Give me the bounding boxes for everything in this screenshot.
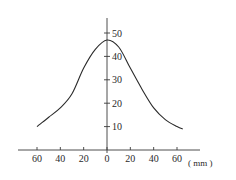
x-tick-label: 60: [32, 153, 42, 164]
data-curve: [37, 40, 183, 129]
y-tick-label: 30: [112, 74, 122, 85]
axes: [18, 18, 200, 153]
x-axis-unit-label: ( mm ): [188, 158, 213, 168]
x-tick-label: 40: [149, 153, 159, 164]
x-tick-label: 40: [55, 153, 65, 164]
y-tick-label: 50: [112, 28, 122, 39]
x-tick-label: 20: [125, 153, 135, 164]
x-tick-label: 60: [172, 153, 182, 164]
chart: 6040200204060 1020304050 ( mm ): [0, 0, 236, 180]
y-tick-label: 10: [112, 121, 122, 132]
y-tick-label: 20: [112, 98, 122, 109]
x-tick-label: 0: [105, 153, 110, 164]
y-tick-label: 40: [112, 51, 122, 62]
x-tick-label: 20: [79, 153, 89, 164]
